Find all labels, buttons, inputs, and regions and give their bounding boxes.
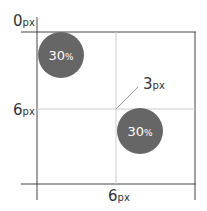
bottom-mid-label: 6px: [108, 187, 130, 205]
circle-percent-unit: %: [144, 128, 153, 138]
circle-top-left: 30%: [38, 32, 84, 78]
circle-percent-value: 30: [127, 124, 144, 139]
origin-label: 0px: [13, 12, 35, 30]
callout-line: [116, 87, 138, 109]
circle-bottom-right: 30%: [117, 108, 163, 154]
circle-percent-value: 30: [48, 48, 65, 63]
callout-label: 3px: [143, 75, 165, 93]
circle-percent-unit: %: [65, 52, 74, 62]
left-mid-label: 6px: [13, 101, 35, 119]
grid-diagram: 30% 30% 0px 6px 6px 3px: [0, 0, 207, 211]
